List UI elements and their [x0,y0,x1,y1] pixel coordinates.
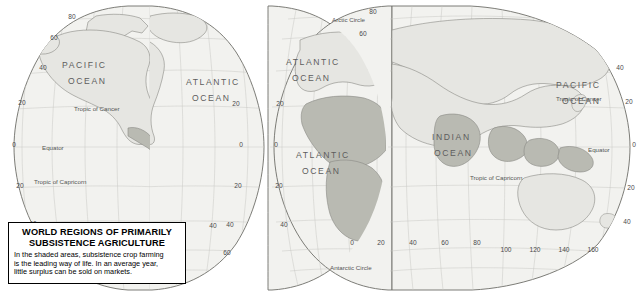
ocean-label-atlantic-south-line2: OCEAN [302,166,341,176]
ocean-label-pacific-west-line2: OCEAN [68,76,107,86]
graticule-number: 20 [234,182,242,189]
ocean-label-atlantic-south-line1: ATLANTIC [296,150,350,160]
graticule-number: 40 [616,64,624,71]
graticule-number: 0 [350,239,354,246]
label-tropic-of-capricorn-west: Tropic of Capricorn [34,178,87,185]
legend-title: WORLD REGIONS OF PRIMARILY SUBSISTENCE A… [14,227,180,248]
label-tropic-of-cancer-east: Tropic of Cancer [556,95,602,102]
label-antarctic-circle: Antarctic Circle [330,264,372,271]
graticule-number: 80 [473,239,481,246]
graticule-number: 20 [16,182,24,189]
graticule-number: 0 [12,141,16,148]
graticule-number: 60 [50,34,58,41]
graticule-number: 20 [276,100,284,107]
graticule-number: 40 [409,239,417,246]
graticule-number: 0 [632,141,636,148]
ocean-label-atlantic-ne-line1: ATLANTIC [286,57,340,67]
graticule-number: 40 [39,64,47,71]
label-tropic-of-capricorn-east-line1: Tropic of Capricorn [470,174,523,181]
label-tropic-of-cancer-west: Tropic of Cancer [74,105,120,112]
graticule-number: 120 [529,246,540,253]
graticule-number: 0 [274,141,278,148]
ocean-label-pacific-west-line1: PACIFIC [62,60,106,70]
graticule-number: 20 [377,239,385,246]
graticule-number: 40 [226,221,234,228]
graticule-number: 140 [558,246,569,253]
graticule-number: 0 [239,141,243,148]
graticule-number: 20 [625,98,633,105]
graticule-number: 80 [369,8,377,15]
graticule-number: 40 [280,221,288,228]
graticule-number: 60 [441,239,449,246]
graticule-number: 80 [68,13,76,20]
ocean-label-indian-line2: OCEAN [434,148,473,158]
ocean-label-atlantic-north-line2: OCEAN [192,93,231,103]
legend-body-line3: little surplus can be sold on markets. [14,268,180,277]
label-arctic-circle: Arctic Circle [332,16,366,23]
legend-title-line2: SUBSISTENCE AGRICULTURE [14,238,180,249]
graticule-number: 40 [209,222,217,229]
graticule-number: 20 [232,100,240,107]
graticule-number: 20 [627,184,635,191]
graticule-number: 60 [223,249,231,256]
legend-body: In the shaded areas, subsistence crop fa… [14,251,180,277]
graticule-number: 40 [623,218,631,225]
ocean-label-pacific-east-line1: PACIFIC [556,80,600,90]
label-equator-west: Equator [42,144,64,151]
graticule-number: 20 [18,99,26,106]
ocean-label-indian-line1: INDIAN [432,132,471,142]
ocean-label-atlantic-north-line1: ATLANTIC [186,77,240,87]
legend-title-line1: WORLD REGIONS OF PRIMARILY [14,227,180,238]
graticule-number: 20 [275,182,283,189]
legend-box: WORLD REGIONS OF PRIMARILY SUBSISTENCE A… [8,222,186,284]
ocean-label-atlantic-ne-line2: OCEAN [292,73,331,83]
graticule-number: 100 [500,246,511,253]
graticule-number: 60 [359,30,367,37]
graticule-number: 160 [587,246,598,253]
label-equator-east: Equator [588,146,610,153]
